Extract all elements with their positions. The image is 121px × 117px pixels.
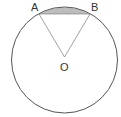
label-o: O <box>60 61 69 73</box>
circle-diagram: A B O <box>0 0 121 117</box>
label-b: B <box>91 1 98 13</box>
label-a: A <box>31 1 39 13</box>
circle <box>12 7 118 113</box>
shaded-segment <box>39 7 90 14</box>
radius-oa <box>39 14 65 57</box>
radius-ob <box>65 14 91 57</box>
